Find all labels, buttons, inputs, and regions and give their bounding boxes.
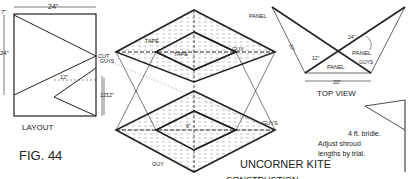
bridle-note-line2: Adjust shroud — [318, 140, 361, 148]
layout-dim-left: 24" — [0, 50, 9, 56]
layout-dim-left-small: 7" — [1, 9, 6, 15]
construction-dim-side: 12" — [106, 92, 114, 98]
guy-bottom-label: GUY — [152, 161, 164, 167]
layout-label: LAYOUT — [22, 123, 54, 132]
guys-right-label: GUYS — [262, 120, 278, 126]
construction-drawing — [96, 10, 275, 172]
top-view-dim-left: 22" — [288, 43, 297, 52]
layout-drawing — [4, 7, 102, 116]
bridle-note-line3: lengths by trial. — [318, 150, 365, 158]
inner-dim-label: 6" — [186, 123, 191, 129]
guy-top-label: GUY — [232, 46, 244, 52]
top-view-guys: GUYS — [359, 59, 374, 65]
top-view-dim-bottom: 20" — [333, 79, 341, 85]
guys-left-label: GUYS — [100, 58, 115, 64]
top-view-dim-right: 24" — [348, 34, 356, 40]
top-view-label: TOP VIEW — [317, 89, 356, 98]
uncorner-kite-diagram: 24" 7" 24" 12" 12" CUT LAYOUT FIG. 44 TA… — [0, 0, 408, 179]
top-view-panel-bottom: PANEL — [327, 64, 345, 70]
figure-subtitle: CONSTRUCTION — [226, 175, 299, 179]
fig-label: FIG. 44 — [19, 148, 62, 163]
layout-dim-inner: 12" — [60, 74, 68, 80]
bridle-note-line1: 4 ft. bridle. — [348, 130, 381, 137]
layout-dim-top: 24" — [48, 3, 59, 10]
construction-panel-label: PANEL — [249, 13, 267, 19]
tape-top-label: TAPE — [145, 38, 159, 44]
tape-inner-label: TAPE — [174, 51, 188, 57]
top-view-panel-right: PANEL — [352, 50, 372, 56]
top-view-dim-inner: 12" — [312, 55, 320, 61]
figure-title: UNCORNER KITE — [240, 158, 331, 170]
